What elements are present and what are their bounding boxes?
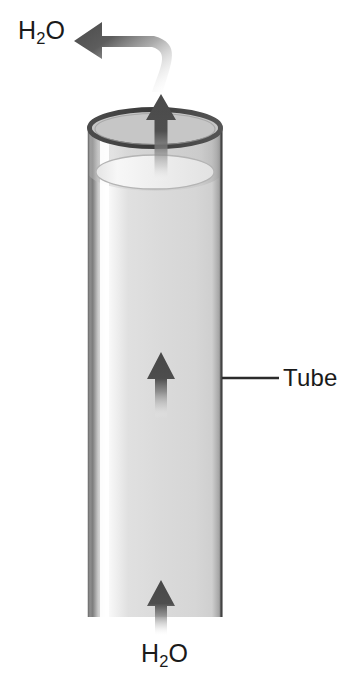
evaporation-arrow-shape bbox=[74, 22, 172, 92]
label-h2o-bottom-formula: H bbox=[141, 639, 159, 667]
label-h2o-top: H2O bbox=[18, 18, 65, 46]
label-h2o-bottom-suffix: O bbox=[168, 639, 188, 667]
label-h2o-top-suffix: O bbox=[45, 16, 65, 44]
label-tube: Tube bbox=[283, 366, 338, 390]
evaporation-curved-arrow bbox=[74, 22, 172, 92]
diagram-canvas: H2O H2O Tube bbox=[0, 0, 347, 687]
label-h2o-top-formula: H bbox=[18, 16, 36, 44]
tube-highlight bbox=[100, 140, 109, 617]
tube-water-diagram bbox=[0, 0, 347, 687]
label-h2o-bottom: H2O bbox=[141, 641, 188, 669]
